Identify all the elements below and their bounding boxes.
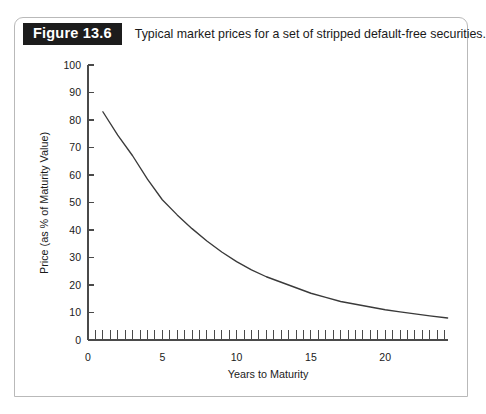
chart-axes xyxy=(88,65,448,340)
y-tick-label: 30 xyxy=(69,251,81,263)
y-tick-label: 80 xyxy=(69,114,81,126)
x-axis-ticks: 05101520 xyxy=(85,351,391,363)
x-tick-label: 10 xyxy=(231,351,243,363)
y-tick-label: 40 xyxy=(69,224,81,236)
x-tick-label: 0 xyxy=(85,351,91,363)
x-tick-label: 5 xyxy=(159,351,165,363)
y-tick-label: 100 xyxy=(63,59,81,71)
x-tick-label: 20 xyxy=(379,351,391,363)
x-axis-label: Years to Maturity xyxy=(228,368,309,380)
chart-series-group xyxy=(103,112,448,318)
y-tick-label: 20 xyxy=(69,279,81,291)
price-curve-line xyxy=(103,112,448,318)
y-axis-label: Price (as % of Maturity Value) xyxy=(38,132,50,274)
y-tick-label: 10 xyxy=(69,306,81,318)
y-tick-label: 90 xyxy=(69,86,81,98)
y-tick-label: 60 xyxy=(69,169,81,181)
y-axis-ticks: 0102030405060708090100 xyxy=(63,59,94,346)
y-tick-label: 50 xyxy=(69,196,81,208)
y-tick-label: 0 xyxy=(75,334,81,346)
x-tick-label: 15 xyxy=(305,351,317,363)
y-tick-label: 70 xyxy=(69,141,81,153)
x-axis-minor-ticks xyxy=(95,330,444,340)
